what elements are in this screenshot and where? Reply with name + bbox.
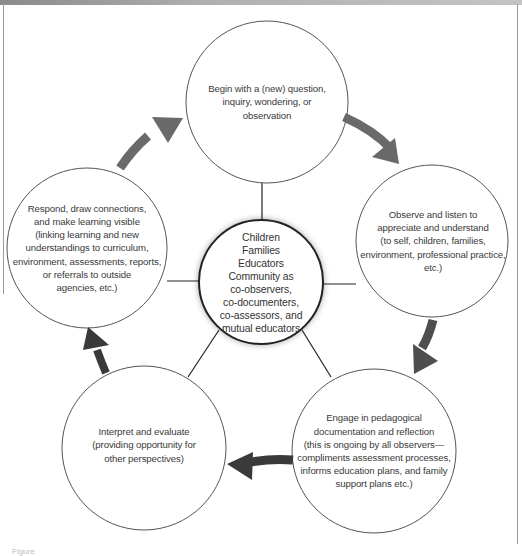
arrow-down-icon (413, 320, 438, 374)
node-engage-line: support plans etc.) (297, 477, 450, 490)
node-engage-line: informs education plans, and family (297, 464, 450, 477)
node-engage-line: compliments assessment processes, (297, 451, 450, 464)
arrow-left-icon (227, 452, 293, 480)
node-observe-line: appreciate and understand (360, 221, 505, 234)
node-engage-line: Engage in pedagogical (297, 411, 450, 424)
node-observe-text: Observe and listen to appreciate and und… (356, 196, 510, 286)
center-line: co-observers, (220, 283, 303, 296)
center-line: Educators (220, 257, 303, 270)
center-line: co-assessors, and (220, 309, 303, 322)
center-line: co-documenters, (220, 296, 303, 309)
center-line: mutual educators (220, 322, 303, 335)
node-begin-line: Begin with a (new) question, (208, 82, 326, 95)
node-interpret-line: other perspectives) (92, 452, 196, 465)
node-respond-line: or referrals to outside (13, 268, 162, 281)
node-respond-line: Respond, draw connections, (13, 202, 162, 215)
arrow-up-right-icon (120, 117, 183, 168)
node-observe-line: etc.) (360, 261, 505, 274)
node-respond-line: and make learning visible (13, 215, 162, 228)
node-respond-line: understandings to curriculum, (13, 241, 162, 254)
node-observe-line: Observe and listen to (360, 208, 505, 221)
node-respond-line: environment, assessments, reports, (13, 255, 162, 268)
figure-caption-cutoff: Figure (12, 547, 35, 556)
center-line: Children (220, 231, 303, 244)
node-respond-line: (linking learning and new (13, 228, 162, 241)
node-observe-line: environment, professional practice, (360, 248, 505, 261)
node-observe-line: (to self, children, families, (360, 234, 505, 247)
node-interpret-line: (providing opportunity for (92, 438, 196, 451)
node-begin-text: Begin with a (new) question, inquiry, wo… (192, 62, 342, 142)
node-engage-line: documentation and reflection (297, 425, 450, 438)
node-interpret-line: Interpret and evaluate (92, 425, 196, 438)
center-line: Community as (220, 270, 303, 283)
node-engage-text: Engage in pedagogical documentation and … (294, 405, 454, 497)
arrow-up-icon (83, 327, 109, 373)
node-begin-line: inquiry, wondering, or (208, 95, 326, 108)
center-node-text: Children Families Educators Community as… (199, 224, 323, 342)
node-respond-text: Respond, draw connections, and make lear… (6, 196, 168, 300)
arrow-right-down-icon (344, 117, 399, 164)
node-respond-line: agencies, etc.) (13, 281, 162, 294)
node-begin-line: observation (208, 109, 326, 122)
node-interpret-text: Interpret and evaluate (providing opport… (66, 420, 222, 470)
center-line: Families (220, 244, 303, 257)
node-engage-line: (this is ongoing by all observers— (297, 438, 450, 451)
